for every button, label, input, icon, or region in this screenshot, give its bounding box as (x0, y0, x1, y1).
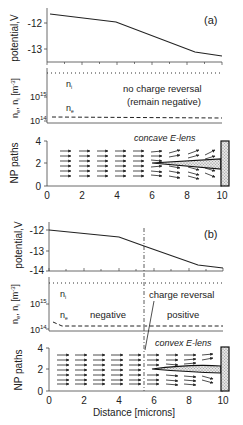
electrode-a (221, 141, 229, 186)
tick-label: 2 (35, 158, 41, 169)
tick-label: 1014 (30, 324, 47, 335)
ylabel-paths: NP paths (13, 350, 24, 391)
ni-label: ni (66, 79, 72, 90)
tick-label: 1015 (30, 91, 47, 102)
tick-label: 4 (114, 190, 120, 201)
xlabel: Distance [microns] (93, 407, 175, 418)
ne-line-b (53, 322, 223, 326)
lens-label-a: concave E-lens (134, 133, 196, 143)
tick-label: 1014 (30, 115, 47, 126)
tick-label: 8 (186, 395, 192, 406)
potential-curve-b (49, 230, 223, 268)
tick-label: 6 (149, 190, 155, 201)
tick-label: 4 (116, 395, 122, 406)
tick-label: 4 (37, 343, 43, 354)
panel-label-b: (b) (204, 228, 217, 240)
annotation-positive: positive (167, 309, 199, 320)
tick-label: 10 (217, 395, 229, 406)
ne-label: ne (60, 310, 68, 321)
potential-curve-a (50, 14, 222, 56)
panel-b: potential,V -12 -13 -14 (b) ne, n (10, 221, 229, 418)
ylabel-potential: potential,V (9, 14, 20, 62)
panel-a-potential: potential,V -12 -13 (a) (9, 8, 222, 65)
tick-label: 8 (184, 190, 190, 201)
panel-a-density: ne, ni [m-3] 1015 1014 ni ne no charge r… (10, 68, 222, 126)
lens-cone-a (152, 159, 221, 169)
tick-label: 6 (151, 395, 157, 406)
ni-label: ni (60, 289, 66, 300)
tick-label: 1015 (30, 298, 47, 309)
tick-label: -12 (30, 225, 45, 236)
tick-label: 4 (35, 136, 41, 147)
figure: potential,V -12 -13 (a) ne, ni [m-3] (0, 0, 243, 425)
tick-label: 0 (46, 395, 52, 406)
ylabel-density: ne, ni [m-3] (10, 78, 21, 118)
annotation-remain-negative: (remain negative) (127, 96, 201, 107)
tick-label: -13 (30, 246, 45, 257)
tick-label: -12 (28, 18, 43, 29)
tick-label: 2 (81, 395, 87, 406)
ne-line-a (52, 117, 222, 118)
tick-label: 0 (35, 181, 41, 192)
tick-label: -13 (28, 44, 43, 55)
tick-label: 2 (79, 190, 85, 201)
lens-label-b: convex E-lens (155, 338, 212, 348)
panel-label-a: (a) (204, 14, 217, 26)
tick-label: 10 (216, 190, 228, 201)
ne-label: ne (66, 103, 74, 114)
ylabel-density: ne, ni [m-3] (10, 284, 21, 324)
annotation-negative: negative (90, 309, 126, 320)
electrode-b (221, 347, 229, 391)
panel-a: potential,V -12 -13 (a) ne, ni [m-3] (9, 8, 229, 201)
panel-a-paths: NP paths concave E-lens 4 2 0 0 2 4 6 8 … (9, 133, 229, 201)
annotation-no-reversal: no charge reversal (123, 83, 202, 94)
annotation-charge-reversal: charge reversal (149, 289, 214, 300)
tick-label: 2 (37, 364, 43, 375)
lens-cone-b (152, 365, 221, 373)
tick-label: 0 (44, 190, 50, 201)
ylabel-potential: potential,V (13, 221, 24, 269)
panel-b-potential: potential,V -12 -13 -14 (b) (13, 221, 223, 276)
tick-label: 0 (37, 386, 43, 397)
panel-b-paths: NP paths convex E-lens 4 2 0 0 2 4 6 8 1… (13, 338, 229, 418)
tick-label: -14 (30, 265, 45, 276)
ylabel-paths: NP paths (9, 143, 20, 184)
